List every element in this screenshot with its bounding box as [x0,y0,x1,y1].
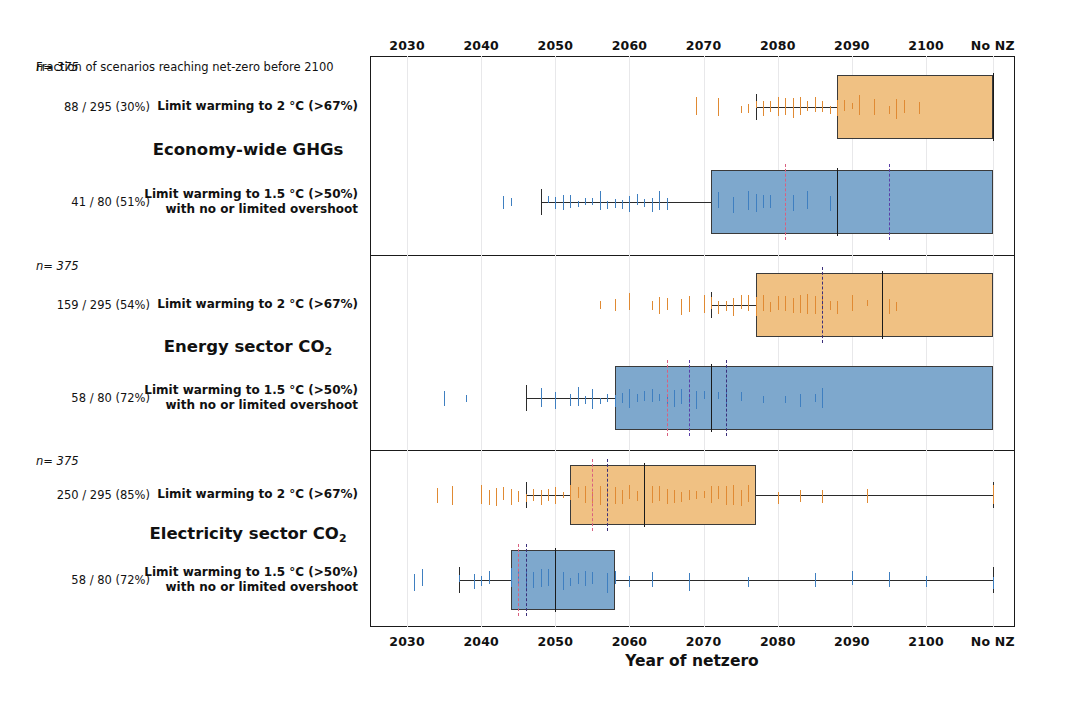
data-point [889,572,890,587]
data-point [830,301,831,310]
data-point [718,192,719,208]
data-point [414,574,415,591]
data-point [511,198,512,206]
data-point [704,295,705,313]
data-point [919,102,920,114]
x-tick-label-bottom-no-nz: No NZ [971,634,1015,649]
data-point [578,387,579,406]
reference-line-pink-2-0 [592,459,593,531]
group-count-2-0: 250 / 295 (85%) [57,488,150,502]
data-point [822,101,823,112]
data-point [770,302,771,311]
data-point [793,100,794,115]
gridline [555,56,556,627]
data-point [481,485,482,504]
x-tick-label-top-2030: 2030 [389,38,425,53]
data-point [770,195,771,208]
data-point [474,574,475,588]
data-point [615,395,616,408]
data-point [652,572,653,587]
data-point [726,486,727,505]
data-point [652,389,653,402]
group-label-1-1: Limit warming to 1.5 °C (>50%)with no or… [144,383,358,413]
x-tick-label-bottom-2040: 2040 [463,634,499,649]
whisker-high-2-0 [756,495,993,496]
header-note: Fraction of scenarios reaching net-zero … [36,60,334,74]
whisker-cap-low-0-1 [541,189,542,215]
x-tick-label-top-2090: 2090 [834,38,870,53]
data-point [756,101,757,108]
data-point [585,486,586,503]
box-2-0 [570,465,755,525]
data-point [667,198,668,210]
data-point [444,391,445,406]
data-point [741,302,742,308]
data-point [452,486,453,505]
data-point [889,299,890,315]
data-point [555,392,556,409]
data-point [592,389,593,409]
data-point [756,194,757,212]
data-point [548,196,549,203]
data-point [674,490,675,503]
data-point [563,492,564,498]
data-point [607,573,608,593]
data-point [800,394,801,407]
x-tick-label-top-2070: 2070 [686,38,722,53]
data-point [422,569,423,586]
plot-frame [370,56,1015,627]
x-tick-label-top-2100: 2100 [908,38,944,53]
data-point [644,391,645,401]
group-count-2-1: 58 / 80 (72%) [71,573,150,587]
data-point [822,490,823,504]
data-point [681,299,682,316]
data-point [896,99,897,119]
data-point [555,487,556,504]
data-point [681,389,682,404]
data-point [778,296,779,310]
gridline [407,56,408,627]
data-point [807,101,808,111]
data-point [785,98,786,113]
reference-line-pink-1-1 [667,360,668,436]
data-point [793,298,794,313]
data-point [548,569,549,586]
data-point [741,106,742,114]
data-point [585,396,586,404]
data-point [533,572,534,588]
panel-n-label-0: n= 375 [36,60,79,74]
data-point [867,489,868,502]
data-point [830,196,831,211]
data-point [570,195,571,208]
data-point [748,577,749,587]
x-tick-label-bottom-2100: 2100 [908,634,944,649]
data-point [555,197,556,209]
data-point [748,295,749,311]
group-count-0-1: 41 / 80 (51%) [71,195,150,209]
median-2-0 [644,463,645,527]
data-point [904,100,905,112]
data-point [578,201,579,207]
data-point [718,301,719,314]
data-point [844,100,845,111]
x-tick-label-bottom-2060: 2060 [612,634,648,649]
data-point [570,394,571,407]
gridline [481,56,482,627]
data-point [689,573,690,591]
data-point [541,388,542,407]
reference-line-dashdot-1-0 [822,267,823,343]
data-point [741,490,742,506]
data-point [815,97,816,110]
data-point [993,577,994,589]
gridline [629,56,630,627]
data-point [637,394,638,402]
whisker-low-0-0 [756,107,838,108]
data-point [763,295,764,311]
panel-n-label-2: n= 375 [36,454,79,468]
data-point [756,297,757,316]
gridline [704,56,705,627]
data-point [778,492,779,504]
data-point [696,391,697,410]
data-point [785,296,786,311]
median-0-0 [993,73,994,141]
